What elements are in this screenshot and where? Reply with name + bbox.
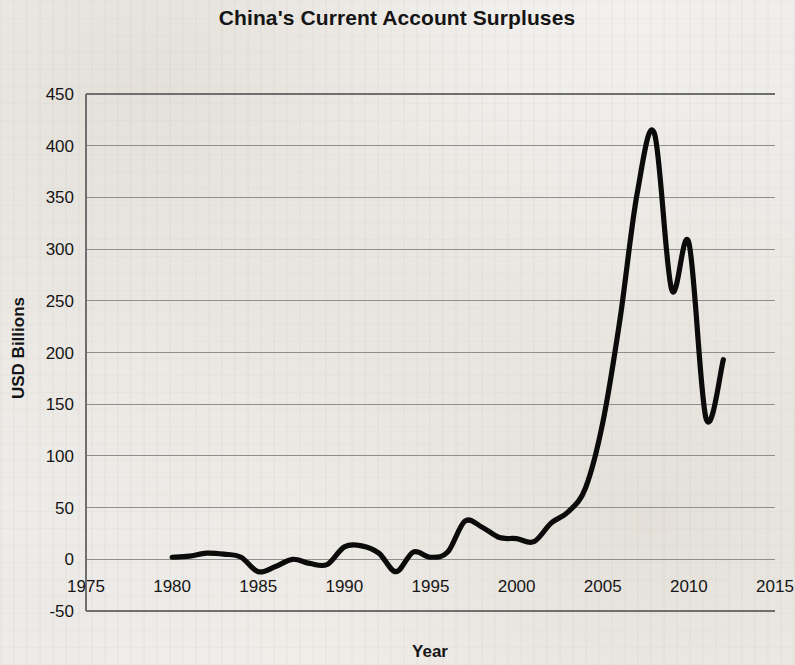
x-tick-label-1995: 1995 [412,577,450,596]
y-tick-label-300: 300 [46,240,74,259]
x-tick-label-1990: 1990 [325,577,363,596]
chart-title: China's Current Account Surpluses [219,6,575,29]
y-tick-label-200: 200 [46,344,74,363]
y-tick-label-450: 450 [46,85,74,104]
x-tick-label-2000: 2000 [498,577,536,596]
line-chart: China's Current Account Surpluses -50050… [0,0,795,665]
x-tick-label-2015: 2015 [756,577,794,596]
y-tick-label-100: 100 [46,447,74,466]
x-tick-label-2010: 2010 [670,577,708,596]
y-tick-label-250: 250 [46,292,74,311]
gridlines [86,94,775,611]
x-axis-tick-labels: 197519801985199019952000200520102015 [67,577,794,596]
x-tick-label-1985: 1985 [239,577,277,596]
y-tick-label--50: -50 [49,602,74,621]
y-axis-tick-labels: -50050100150200250300350400450 [46,85,74,621]
data-series-line [172,130,723,572]
chart-figure: China's Current Account Surpluses -50050… [0,0,795,665]
y-tick-label-350: 350 [46,188,74,207]
x-tick-label-1975: 1975 [67,577,105,596]
y-tick-label-50: 50 [55,499,74,518]
x-tick-label-2005: 2005 [584,577,622,596]
y-tick-label-0: 0 [65,550,74,569]
x-axis-title: Year [412,642,448,661]
y-axis-title: USD Billions [9,297,28,399]
y-tick-label-400: 400 [46,137,74,156]
x-tick-label-1980: 1980 [153,577,191,596]
y-tick-label-150: 150 [46,395,74,414]
